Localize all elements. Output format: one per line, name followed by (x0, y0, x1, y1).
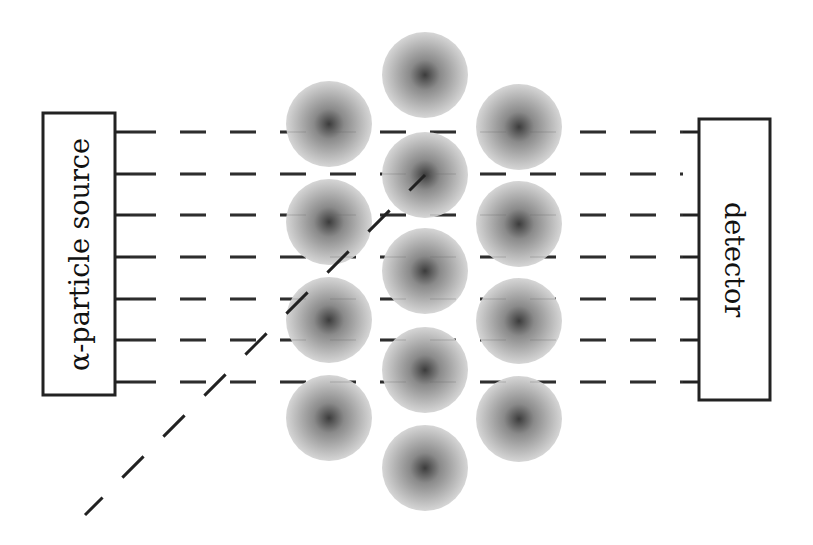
detector-label: detector (719, 202, 750, 317)
atom (286, 179, 372, 265)
atom (286, 375, 372, 461)
atom (382, 425, 468, 511)
atom (382, 228, 468, 314)
scattered-alpha-path (85, 175, 425, 515)
scattering-diagram (0, 0, 813, 545)
atom (286, 277, 372, 363)
atom (476, 84, 562, 170)
atom (286, 81, 372, 167)
atom (382, 32, 468, 118)
atom (476, 376, 562, 462)
scattered-path-line (85, 175, 425, 515)
alpha-source-label: α-particle source (63, 138, 94, 371)
atom (476, 278, 562, 364)
atom (476, 181, 562, 267)
